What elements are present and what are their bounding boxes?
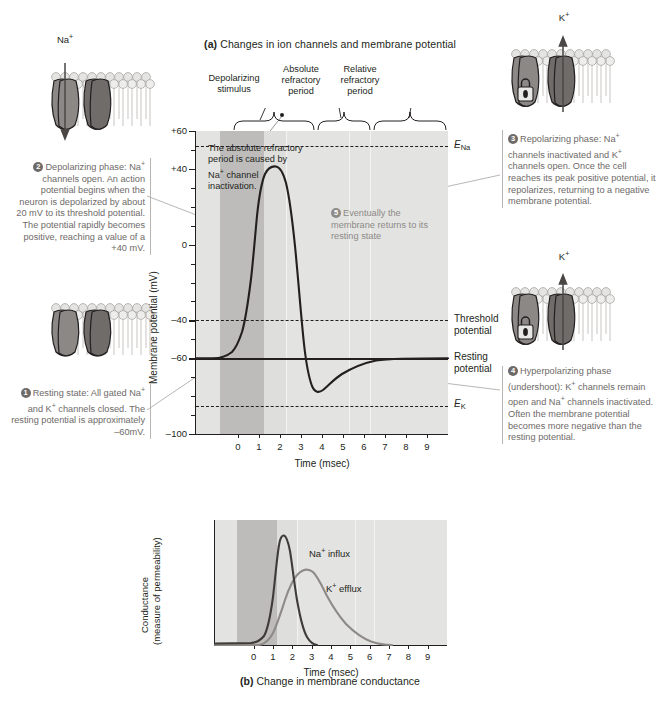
label-resting-potential: Resting potential [454,351,514,374]
x-tick-label-b-1: 1 [270,651,275,662]
figure-a-title-prefix: (a) [204,38,217,50]
callout-3: 3Repolarizing phase: Na+ channels inacti… [502,130,658,208]
membrane-ion-label-k-mid: K+ [544,250,584,262]
bracket-label-relative-refractory: Relative refractory period [331,64,389,97]
callout-1-text: Resting state: All gated Na+ and K+ chan… [11,388,145,437]
bracket-1-text: Absolute refractory period [282,64,321,96]
y-tick-label-40: +40 [171,163,187,174]
x-tick-label-8: 8 [403,441,408,452]
callout-2: 2Depolarizing phase: Na+ channels open. … [10,158,151,255]
x-axis-title-a: Time (msec) [196,458,448,469]
bracket-2-text: Relative refractory period [341,64,380,96]
label-threshold-potential: Threshold potential [454,313,514,336]
y-axis-title-b-line2: (measure of permeability) [151,537,162,645]
x-tick-label-2: 2 [277,441,282,452]
callout-5-text: Eventually the membrane returns to its r… [331,208,428,241]
callout-1-number: 1 [21,388,31,398]
x-tick-label-5: 5 [340,441,345,452]
membrane-ion-label-k-top: K+ [544,11,584,23]
bracket-label-depolarizing-stimulus: Depolarizing stimulus [198,73,270,95]
callout-4: 4Hyperpolarizing phase (undershoot): K+ … [502,366,658,444]
x-tick-label-b-6: 6 [367,651,372,662]
y-tick-label-m60: –60 [171,352,187,363]
bracket-label-absolute-refractory: Absolute refractory period [272,64,330,97]
y-tick-label-60: +60 [171,125,187,136]
callout-3-text: Repolarizing phase: Na+ channels inactiv… [508,134,656,206]
x-axis-title-b: Time (msec) [215,667,447,678]
x-tick-label-1: 1 [256,441,261,452]
x-tick-label-6: 6 [361,441,366,452]
curve-label-na-influx: Na+ influx [309,547,350,559]
x-tick-label-b-7: 7 [386,651,391,662]
callout-5-number: 5 [331,208,341,218]
y-tick-label-m100: –100 [166,428,187,439]
callout-5: 5Eventually the membrane returns to its … [331,208,439,243]
y-tick-label-m40: –40 [171,314,187,325]
y-axis-title-a: Membrane potential (mV) [148,271,159,384]
x-tick-label-3: 3 [298,441,303,452]
callout-4-text: Hyperpolarizing phase (undershoot): K+ c… [508,366,653,442]
chart-a: +60 +40 0 –40 –60 –100 0 1 2 3 4 5 6 7 8… [196,131,448,434]
inner-note-absolute-refractory: The absolute refractory period is caused… [208,143,304,192]
membrane-diagram-k-open-1 [506,32,616,122]
chart-b: 0 1 2 3 4 5 6 7 8 9 Na+ influx K+ efflux… [215,520,447,645]
callout-2-number: 2 [33,162,43,172]
callout-2-text: Depolarizing phase: Na+ channels open. A… [16,162,145,253]
x-tick-label-b-2: 2 [290,651,295,662]
x-tick-label-0: 0 [235,441,240,452]
label-e-k: EK [454,398,466,413]
membrane-diagram-k-open-2 [506,270,616,360]
figure-a-title-text: Changes in ion channels and membrane pot… [220,38,456,50]
x-tick-label-b-3: 3 [309,651,314,662]
membrane-diagram-all-closed [46,300,156,372]
callout-1: 1Resting state: All gated Na+ and K+ cha… [10,384,151,439]
x-tick-label-9: 9 [424,441,429,452]
label-e-na: ENa [454,139,470,154]
x-tick-label-b-8: 8 [406,651,411,662]
callout-3-number: 3 [508,134,518,144]
membrane-diagram-na-open [46,55,156,145]
x-tick-label-b-4: 4 [328,651,333,662]
x-tick-label-4: 4 [319,441,324,452]
x-tick-label-7: 7 [382,441,387,452]
x-tick-label-b-9: 9 [425,651,430,662]
x-tick-label-b-0: 0 [251,651,256,662]
bracket-group [196,108,448,132]
y-axis-title-b-line1: Conductance [139,577,150,633]
y-tick-label-0: 0 [182,239,187,250]
x-tick-label-b-5: 5 [348,651,353,662]
membrane-ion-label-na-top: Na+ [45,33,85,45]
bracket-0-text: Depolarizing stimulus [208,73,259,94]
curve-label-k-efflux: K+ efflux [326,582,362,594]
